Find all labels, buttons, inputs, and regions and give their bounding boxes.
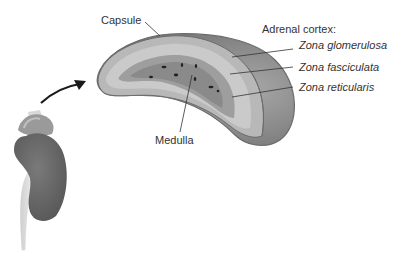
capsule-label: Capsule (101, 15, 141, 26)
zona-glomerulosa-label: Zona glomerulosa (299, 40, 387, 51)
zona-reticularis-label: Zona reticularis (299, 82, 374, 93)
adrenal-cortex-heading: Adrenal cortex: (262, 24, 336, 35)
medulla-label: Medulla (155, 135, 194, 146)
zona-fasciculata-label: Zona fasciculata (299, 62, 379, 73)
kidney-illustration (14, 110, 67, 250)
magnify-arrow (41, 80, 86, 103)
adrenal-gland-diagram: Capsule Medulla Adrenal cortex: Zona glo… (0, 0, 398, 270)
adrenal-cross-section (97, 34, 294, 146)
